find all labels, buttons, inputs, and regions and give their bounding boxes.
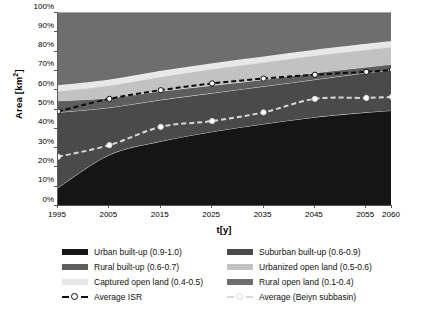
y-tick-label: 10% xyxy=(26,175,54,184)
legend-row: Captured open land (0.4-0.5)Rural open l… xyxy=(0,274,423,289)
overlay-line-marker xyxy=(389,94,391,99)
x-tick-label: 2005 xyxy=(88,210,128,219)
y-tick-mark xyxy=(54,12,57,13)
legend-label: Captured open land (0.4-0.5) xyxy=(94,277,203,287)
overlay-line-marker xyxy=(58,154,61,159)
x-tick-mark xyxy=(160,205,161,208)
y-tick-label: 40% xyxy=(26,117,54,126)
x-tick-mark xyxy=(263,205,264,208)
overlay-line-marker xyxy=(312,96,317,101)
y-axis-tick-labels: 0%10%20%30%40%50%60%70%80%90%100% xyxy=(26,6,54,206)
overlay-line-marker xyxy=(107,143,112,148)
y-tick-mark xyxy=(54,70,57,71)
stacked-area-chart: Area [km2] 0%10%20%30%40%50%60%70%80%90%… xyxy=(0,0,423,232)
legend-color-swatch xyxy=(227,279,253,285)
legend-line-marker-icon xyxy=(227,292,253,301)
legend-color-swatch xyxy=(62,279,88,285)
y-tick-label: 50% xyxy=(26,98,54,107)
overlay-line-marker xyxy=(364,69,369,74)
y-axis-title: Area [km2] xyxy=(12,54,24,134)
overlay-line-marker xyxy=(389,67,391,72)
plot-area xyxy=(57,12,391,205)
x-tick-label: 2045 xyxy=(294,210,334,219)
legend-item[interactable]: Urbanized open land (0.5-0.6) xyxy=(227,259,372,274)
legend-label: Urbanized open land (0.5-0.6) xyxy=(259,262,372,272)
y-tick-label: 60% xyxy=(26,79,54,88)
figure-caption xyxy=(8,320,418,336)
overlay-line-marker xyxy=(210,81,215,86)
legend-color-swatch xyxy=(227,264,253,270)
overlay-line-marker xyxy=(364,95,369,100)
overlay-line-marker xyxy=(210,118,215,123)
y-tick-label: 100% xyxy=(26,2,54,11)
x-tick-label: 2060 xyxy=(371,210,411,219)
chart-legend: Urban built-up (0.9-1.0)Suburban built-u… xyxy=(0,244,423,302)
legend-item[interactable]: Captured open land (0.4-0.5) xyxy=(62,274,203,289)
x-axis-line xyxy=(57,205,391,206)
x-axis-title: t[y] xyxy=(57,224,391,235)
plot-svg xyxy=(58,12,391,205)
y-tick-mark xyxy=(54,128,57,129)
overlay-line-marker xyxy=(158,124,163,129)
x-tick-mark xyxy=(211,205,212,208)
x-tick-label: 1995 xyxy=(37,210,77,219)
overlay-line-marker xyxy=(312,72,317,77)
x-tick-mark xyxy=(314,205,315,208)
legend-label: Rural built-up (0.6-0.7) xyxy=(94,262,179,272)
y-tick-mark xyxy=(54,147,57,148)
figure-container: Area [km2] 0%10%20%30%40%50%60%70%80%90%… xyxy=(0,0,423,336)
legend-color-swatch xyxy=(62,264,88,270)
x-tick-label: 2035 xyxy=(243,210,283,219)
legend-color-swatch xyxy=(227,249,253,255)
x-tick-mark xyxy=(365,205,366,208)
y-tick-label: 80% xyxy=(26,40,54,49)
legend-row: Average ISRAverage (Beiyn subbasin) xyxy=(0,289,423,304)
legend-item[interactable]: Rural built-up (0.6-0.7) xyxy=(62,259,179,274)
y-tick-mark xyxy=(54,51,57,52)
legend-label: Urban built-up (0.9-1.0) xyxy=(94,247,182,257)
y-tick-mark xyxy=(54,89,57,90)
legend-item[interactable]: Urban built-up (0.9-1.0) xyxy=(62,244,182,259)
overlay-line-marker xyxy=(107,96,112,101)
y-axis-title-text: Area [km xyxy=(13,77,24,119)
legend-label: Average (Beiyn subbasin) xyxy=(259,292,356,302)
y-tick-mark xyxy=(54,109,57,110)
y-tick-mark xyxy=(54,166,57,167)
legend-row: Urban built-up (0.9-1.0)Suburban built-u… xyxy=(0,244,423,259)
legend-row: Rural built-up (0.6-0.7)Urbanized open l… xyxy=(0,259,423,274)
legend-label: Suburban built-up (0.6-0.9) xyxy=(259,247,361,257)
y-axis-title-superscript: 2 xyxy=(12,73,19,77)
legend-item[interactable]: Suburban built-up (0.6-0.9) xyxy=(227,244,361,259)
y-tick-label: 0% xyxy=(26,195,54,204)
x-tick-label: 2015 xyxy=(140,210,180,219)
y-tick-label: 30% xyxy=(26,137,54,146)
legend-item[interactable]: Rural open land (0.1-0.4) xyxy=(227,274,354,289)
legend-item[interactable]: Average (Beiyn subbasin) xyxy=(227,289,356,304)
legend-label: Rural open land (0.1-0.4) xyxy=(259,277,354,287)
y-tick-label: 70% xyxy=(26,59,54,68)
y-tick-mark xyxy=(54,31,57,32)
overlay-line-marker xyxy=(261,76,266,81)
x-tick-label: 2025 xyxy=(191,210,231,219)
overlay-line-marker xyxy=(58,109,61,114)
overlay-line-marker xyxy=(158,88,163,93)
x-tick-mark xyxy=(391,205,392,208)
legend-label: Average ISR xyxy=(94,292,142,302)
legend-line-marker-icon xyxy=(62,292,88,301)
y-tick-mark xyxy=(54,205,57,206)
x-tick-mark xyxy=(57,205,58,208)
legend-color-swatch xyxy=(62,249,88,255)
overlay-line-marker xyxy=(261,110,266,115)
y-axis-title-tail: ] xyxy=(13,69,24,72)
legend-item[interactable]: Average ISR xyxy=(62,289,142,304)
y-tick-label: 90% xyxy=(26,21,54,30)
y-tick-label: 20% xyxy=(26,156,54,165)
y-tick-mark xyxy=(54,186,57,187)
x-tick-mark xyxy=(108,205,109,208)
